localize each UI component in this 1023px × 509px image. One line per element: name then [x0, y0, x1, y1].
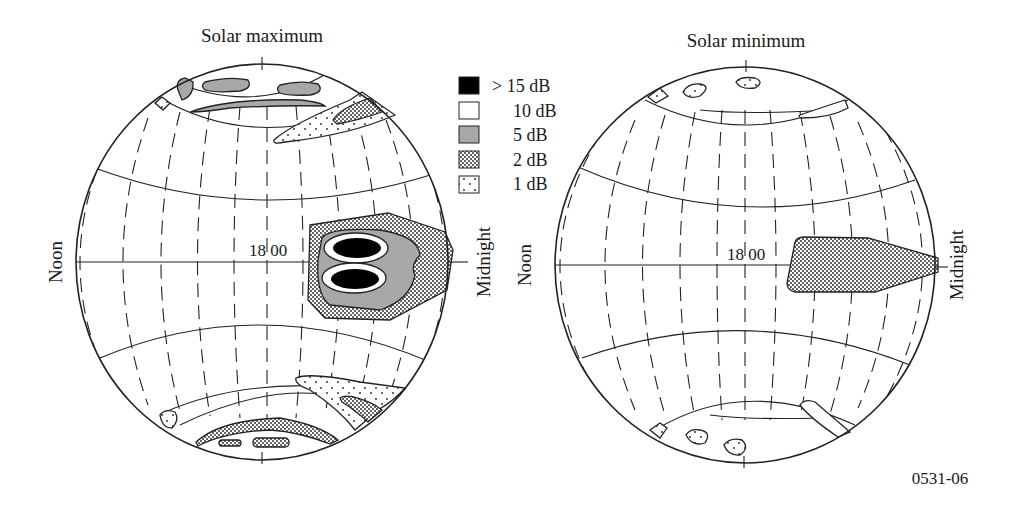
noon-label: Noon [45, 240, 66, 283]
time-label-1800: 18 00 [249, 241, 287, 260]
noise-zone-midnight [308, 213, 453, 320]
legend-item-15db: > 15 dB [459, 76, 550, 96]
swatch-gray [459, 126, 479, 143]
noise-zones-top [155, 78, 395, 143]
legend-item-1db: 1 dB [459, 174, 548, 194]
svg-text:1 dB: 1 dB [513, 174, 548, 194]
figure-id: 0531-06 [912, 469, 969, 488]
swatch-white [459, 102, 479, 119]
noon-label: Noon [514, 243, 535, 286]
legend-item-2db: 2 dB [459, 150, 548, 170]
legend-item-5db: 5 dB [459, 125, 548, 145]
panel-solar-maximum: Solar maximum [45, 25, 494, 464]
panel-title: Solar maximum [201, 25, 323, 46]
svg-text:5 dB: 5 dB [513, 125, 548, 145]
swatch-black [459, 77, 479, 94]
time-label-1800: 18 00 [727, 245, 765, 264]
swatch-sparse-dots [459, 176, 479, 193]
midnight-label: Midnight [946, 229, 967, 300]
noise-zone-midnight [787, 237, 938, 292]
legend-item-10db: 10 dB [459, 101, 557, 121]
figure-canvas: Solar maximum [0, 0, 1023, 509]
legend: > 15 dB 10 dB 5 dB 2 dB 1 dB [459, 76, 557, 194]
panel-title: Solar minimum [687, 30, 806, 51]
svg-text:10 dB: 10 dB [513, 101, 557, 121]
svg-text:> 15 dB: > 15 dB [492, 76, 550, 96]
swatch-dense-dots [459, 151, 479, 168]
midnight-label: Midnight [473, 226, 494, 297]
panel-solar-minimum: Solar minimum [514, 30, 967, 468]
svg-text:2 dB: 2 dB [513, 150, 548, 170]
